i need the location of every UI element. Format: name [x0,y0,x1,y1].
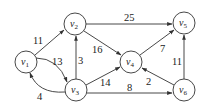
weight-v3-v4: 14 [100,77,111,88]
weight-v4-v5: 7 [160,43,165,54]
weight-v2-v4: 16 [92,44,103,55]
weight-v6-v4: 2 [146,76,151,87]
graph-diagram: 11 13 4 3 16 25 14 8 7 2 11 v1 v2 v3 v4 … [0,0,208,111]
node-v6: v6 [173,79,195,101]
weight-v3-v2: 3 [78,55,83,66]
node-v1: v1 [15,51,37,73]
weight-v3-v1: 4 [37,91,43,102]
weight-v1-v3: 13 [52,56,63,67]
edge-v4-v5 [140,30,174,55]
weight-v6-v5: 11 [172,56,182,67]
node-v3: v3 [65,79,87,101]
node-v2: v2 [64,13,86,35]
edge-v2-v4 [84,31,121,55]
node-v4: v4 [120,51,142,73]
edge-v3-v1 [30,73,65,92]
weight-v2-v5: 25 [124,12,135,23]
weight-v1-v2: 11 [33,35,43,46]
weight-v3-v6: 8 [127,82,132,93]
node-v5: v5 [173,12,195,34]
